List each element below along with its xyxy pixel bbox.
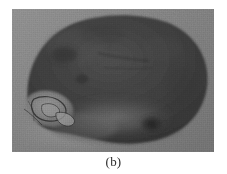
film-grain (12, 9, 214, 152)
figure-caption: (b) (0, 153, 227, 170)
tuber-photograph (12, 9, 214, 152)
figure-image (12, 9, 214, 152)
figure-panel: (b) (0, 0, 227, 174)
